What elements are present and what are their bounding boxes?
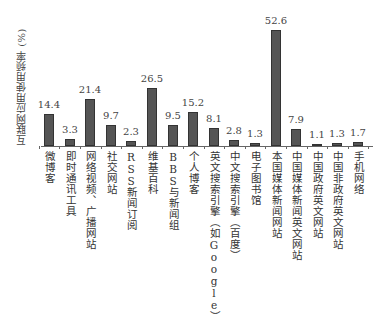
x-axis-tick (265, 146, 266, 149)
x-axis-tick (101, 146, 102, 149)
category-label: 网络视频、广播网站 (84, 151, 96, 250)
bar (65, 139, 75, 146)
value-label: 3.3 (55, 124, 85, 135)
value-label: 14.4 (34, 99, 64, 110)
x-axis-tick (245, 146, 246, 149)
x-axis-tick (59, 146, 60, 149)
bar (312, 144, 322, 146)
value-label: 26.5 (137, 73, 167, 84)
bar (229, 140, 239, 146)
category-label: 维基百科 (146, 151, 158, 195)
y-axis-label: 互联网应用使用频率 (%) (14, 28, 28, 145)
x-axis-tick (39, 146, 40, 149)
category-label: 电子图书馆 (249, 151, 261, 206)
bar (250, 143, 260, 146)
x-axis-tick (327, 146, 328, 149)
value-label: 52.6 (261, 15, 291, 26)
x-axis-tick (204, 146, 205, 149)
value-label: 7.9 (281, 114, 311, 125)
bar (291, 129, 301, 146)
category-label: 个人博客 (187, 151, 199, 195)
x-axis-tick (368, 146, 369, 149)
category-label: BBS与新闻组 (167, 151, 179, 231)
bar (209, 128, 219, 146)
category-label: 中国媒体新闻英文网站 (290, 151, 302, 261)
category-label: 英文搜索引擎（如Google） (208, 151, 220, 318)
category-label: 中国政府英文网站 (311, 151, 323, 239)
category-label: 中国非政府英文网站 (331, 151, 343, 250)
value-label: 9.5 (158, 110, 188, 121)
bar (85, 99, 95, 146)
x-axis-tick (286, 146, 287, 149)
bar (271, 30, 281, 146)
category-label: 微博客 (43, 151, 55, 184)
x-axis-tick (307, 146, 308, 149)
bar (126, 141, 136, 146)
value-label: 1.3 (240, 128, 270, 139)
category-label: 本国媒体新闻网站 (270, 151, 282, 239)
value-label: 15.2 (178, 97, 208, 108)
x-axis-tick (142, 146, 143, 149)
value-label: 1.7 (343, 127, 373, 138)
bar (106, 125, 116, 146)
value-label: 8.1 (199, 113, 229, 124)
value-label: 21.4 (75, 84, 105, 95)
x-axis-tick (348, 146, 349, 149)
bar (188, 112, 198, 146)
bar (332, 143, 342, 146)
category-label: 即时通讯工具 (64, 151, 76, 217)
x-axis-tick (162, 146, 163, 149)
value-label: 9.7 (96, 110, 126, 121)
x-axis-tick (224, 146, 225, 149)
bar (147, 88, 157, 146)
value-label: 2.3 (116, 126, 146, 137)
x-axis-tick (183, 146, 184, 149)
bar (353, 142, 363, 146)
category-label: 中文搜索引擎（百度） (228, 151, 240, 261)
x-axis-tick (80, 146, 81, 149)
x-axis-tick (121, 146, 122, 149)
category-label: 社交网站 (105, 151, 117, 195)
category-label: 手机网络 (352, 151, 364, 195)
x-axis-line (41, 146, 373, 147)
bar (44, 114, 54, 146)
category-label: RSS新闻订阅 (125, 151, 137, 231)
bar (168, 125, 178, 146)
